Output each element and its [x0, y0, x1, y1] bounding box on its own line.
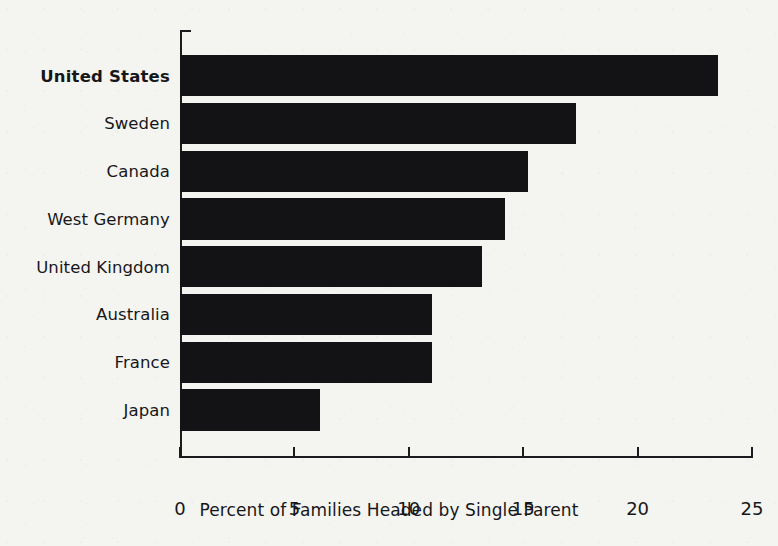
- category-label-west-germany: West Germany: [0, 209, 170, 228]
- x-axis-tick: [751, 447, 753, 458]
- bar: [180, 55, 718, 96]
- category-label-france: France: [0, 353, 170, 372]
- bar: [180, 389, 320, 430]
- category-label-sweden: Sweden: [0, 114, 170, 133]
- category-label-canada: Canada: [0, 162, 170, 181]
- bar: [180, 342, 432, 383]
- category-label-united-kingdom: United Kingdom: [0, 257, 170, 276]
- bar: [180, 151, 528, 192]
- category-label-australia: Australia: [0, 305, 170, 324]
- plot-area: 0510152025: [180, 30, 752, 458]
- category-label-japan: Japan: [0, 400, 170, 419]
- bar: [180, 103, 576, 144]
- bar: [180, 246, 482, 287]
- x-axis-tick: [408, 447, 410, 458]
- x-axis-line: [180, 456, 752, 458]
- x-axis-tick: [293, 447, 295, 458]
- x-axis-title: Percent of Families Headed by Single Par…: [0, 500, 778, 520]
- x-axis-tick: [179, 447, 181, 458]
- bar-chart: United StatesSwedenCanadaWest GermanyUni…: [0, 0, 778, 546]
- category-axis-labels: United StatesSwedenCanadaWest GermanyUni…: [0, 0, 170, 546]
- bar: [180, 198, 505, 239]
- category-label-united-states: United States: [0, 66, 170, 85]
- x-axis-tick: [637, 447, 639, 458]
- bar: [180, 294, 432, 335]
- y-axis-top-tick: [180, 30, 191, 32]
- x-axis-tick: [522, 447, 524, 458]
